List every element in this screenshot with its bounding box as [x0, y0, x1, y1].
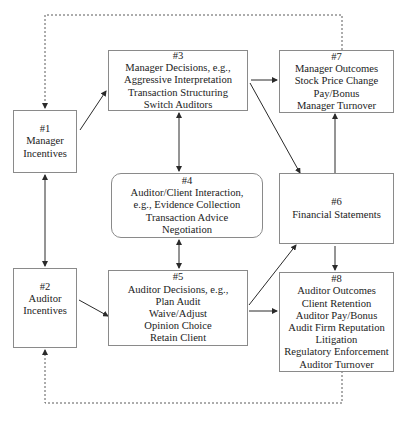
node-line: Regulatory Enforcement: [284, 346, 388, 358]
node-number: #7: [331, 51, 342, 63]
node-6-financial-statements: #6 Financial Statements: [279, 173, 394, 244]
edge-1-to-3: [80, 91, 106, 130]
node-1-manager-incentives: #1 Manager Incentives: [13, 110, 77, 173]
node-line: Auditor: [29, 293, 62, 305]
node-5-auditor-decisions: #5 Auditor Decisions, e.g., Plan Audit W…: [108, 270, 248, 346]
node-line: Negotiation: [162, 224, 212, 236]
node-line: Incentives: [23, 305, 67, 317]
node-number: #6: [331, 196, 342, 208]
node-line: Retain Client: [150, 332, 206, 344]
node-number: #3: [173, 50, 184, 62]
node-line: Incentives: [23, 148, 67, 160]
node-line: e.g., Evidence Collection: [134, 199, 241, 211]
node-line: Switch Auditors: [144, 99, 213, 111]
node-line: Transaction Advice: [146, 212, 228, 224]
edge-2-to-5: [79, 300, 108, 316]
node-line: Auditor Decisions, e.g.,: [128, 284, 229, 296]
node-line: Litigation: [316, 334, 358, 346]
node-3-manager-decisions: #3 Manager Decisions, e.g., Aggressive I…: [108, 50, 248, 111]
node-line: Manager Decisions, e.g.,: [125, 62, 230, 74]
node-number: #8: [331, 273, 342, 285]
node-number: #4: [182, 175, 193, 187]
node-line: Stock Price Change: [295, 75, 379, 87]
node-line: Transaction Structuring: [128, 87, 228, 99]
node-8-auditor-outcomes: #8 Auditor Outcomes Client Retention Aud…: [279, 272, 394, 372]
node-line: Opinion Choice: [144, 320, 211, 332]
node-line: Manager: [26, 135, 64, 147]
node-number: #2: [40, 281, 51, 293]
node-line: Pay/Bonus: [314, 88, 360, 100]
node-line: Waive/Adjust: [149, 308, 207, 320]
node-2-auditor-incentives: #2 Auditor Incentives: [13, 268, 77, 348]
node-line: Plan Audit: [155, 296, 200, 308]
node-line: Aggressive Interpretation: [124, 74, 232, 86]
node-number: #5: [173, 271, 184, 283]
node-line: Client Retention: [302, 298, 372, 310]
node-line: Auditor Turnover: [299, 359, 373, 371]
node-line: Financial Statements: [292, 209, 381, 221]
node-line: Audit Firm Reputation: [288, 322, 385, 334]
node-line: Manager Turnover: [297, 100, 376, 112]
node-number: #1: [40, 123, 51, 135]
node-line: Auditor/Client Interaction,: [131, 187, 244, 199]
node-line: Auditor Outcomes: [297, 285, 376, 297]
incentives-flow-diagram: #1 Manager Incentives #2 Auditor Incenti…: [0, 0, 405, 424]
node-4-auditor-client-interaction: #4 Auditor/Client Interaction, e.g., Evi…: [111, 173, 263, 238]
node-7-manager-outcomes: #7 Manager Outcomes Stock Price Change P…: [279, 50, 394, 113]
node-line: Manager Outcomes: [295, 63, 378, 75]
node-line: Auditor Pay/Bonus: [296, 310, 378, 322]
